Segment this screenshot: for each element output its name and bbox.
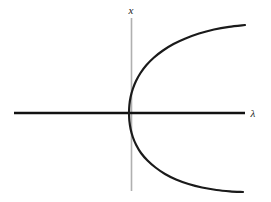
- bifurcation-figure: x λ: [0, 0, 271, 202]
- x-axis-label: x: [128, 4, 134, 16]
- plot-background: [0, 0, 271, 202]
- lambda-axis-label: λ: [250, 107, 256, 119]
- plot-canvas: x λ: [0, 0, 271, 202]
